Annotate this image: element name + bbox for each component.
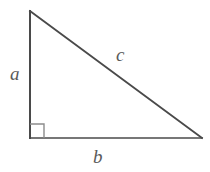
right-triangle-diagram: a b c (0, 0, 210, 172)
triangle-hypotenuse-c (30, 11, 202, 138)
label-side-c: c (116, 45, 124, 64)
label-side-b: b (93, 147, 103, 166)
right-angle-marker-icon (30, 124, 44, 138)
label-side-a: a (10, 64, 20, 83)
triangle-graphic (0, 0, 210, 172)
